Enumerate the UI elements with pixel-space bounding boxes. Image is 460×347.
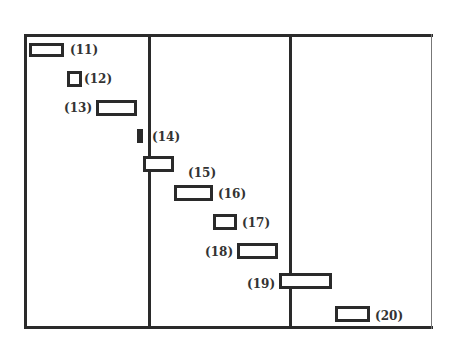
interval-label: (16) bbox=[218, 187, 246, 201]
frame-bottom-border bbox=[24, 326, 433, 329]
interval-label: (20) bbox=[375, 309, 403, 323]
interval-box bbox=[335, 306, 370, 322]
interval-box bbox=[143, 156, 174, 172]
interval-label: (18) bbox=[205, 245, 233, 259]
interval-box bbox=[279, 273, 332, 289]
interval-label: (14) bbox=[152, 130, 180, 144]
interval-label: (15) bbox=[188, 166, 216, 180]
interval-box bbox=[174, 185, 213, 201]
interval-label: (13) bbox=[64, 101, 92, 115]
frame-top-border bbox=[24, 34, 433, 37]
interval-label: (17) bbox=[242, 216, 270, 230]
divider-1 bbox=[148, 34, 151, 329]
interval-box bbox=[213, 214, 237, 230]
interval-box bbox=[237, 243, 278, 259]
interval-box bbox=[67, 71, 82, 87]
interval-label: (12) bbox=[84, 72, 112, 86]
interval-box bbox=[137, 129, 143, 143]
frame-right-border bbox=[431, 34, 432, 329]
interval-label: (11) bbox=[70, 43, 98, 57]
interval-box bbox=[96, 100, 137, 116]
interval-box bbox=[29, 43, 64, 57]
frame-left-border bbox=[24, 34, 27, 329]
interval-label: (19) bbox=[247, 277, 275, 291]
